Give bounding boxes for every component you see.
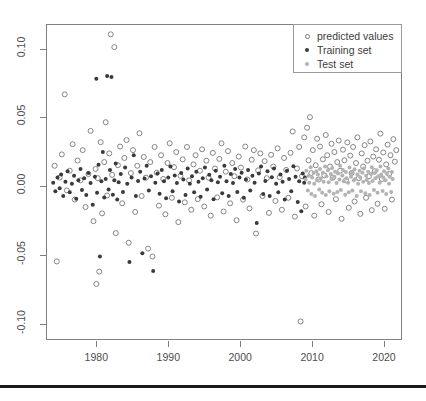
x-tick-mark [384, 341, 385, 347]
x-tick-label: 2020 [361, 351, 407, 363]
y-tick-label: -0.05 [15, 236, 27, 270]
x-tick-mark [312, 341, 313, 347]
x-tick-label: 2010 [289, 351, 335, 363]
chart-legend: predicted values Training set Test set [293, 24, 402, 73]
scatter-plot-figure: 0.100.050.00-0.05-0.10 19801990200020102… [0, 0, 426, 401]
legend-item-training-set: Training set [294, 43, 401, 57]
x-tick-mark [240, 341, 241, 347]
x-tick-label: 2000 [217, 351, 263, 363]
y-tick-mark [40, 117, 46, 118]
y-tick-mark [40, 186, 46, 187]
legend-label-test-set: Test set [317, 58, 353, 70]
y-tick-label: 0.05 [15, 98, 27, 132]
legend-label-predicted-values: predicted values [317, 30, 393, 42]
y-tick-label: 0.00 [15, 167, 27, 201]
x-tick-label: 1980 [73, 351, 119, 363]
y-tick-label: -0.10 [15, 305, 27, 339]
legend-item-predicted-values: predicted values [294, 29, 401, 43]
y-tick-mark [40, 255, 46, 256]
x-tick-mark [168, 341, 169, 347]
open-circle-icon [301, 34, 313, 39]
x-tick-label: 1990 [145, 351, 191, 363]
y-tick-label: 0.10 [15, 30, 27, 64]
y-tick-mark [40, 49, 46, 50]
filled-dark-circle-icon [301, 48, 313, 52]
x-tick-mark [96, 341, 97, 347]
y-tick-mark [40, 324, 46, 325]
filled-light-circle-icon [301, 62, 313, 66]
legend-item-test-set: Test set [294, 57, 401, 71]
bottom-divider-bar [0, 385, 426, 388]
legend-label-training-set: Training set [317, 44, 371, 56]
